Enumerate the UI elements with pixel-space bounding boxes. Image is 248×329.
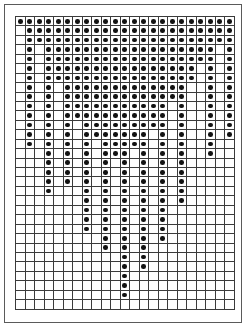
dot-cell-filled[interactable] <box>130 26 140 35</box>
dot-cell-filled[interactable] <box>44 177 54 186</box>
dot-cell-empty[interactable] <box>44 290 54 299</box>
dot-cell-empty[interactable] <box>225 224 235 233</box>
dot-cell-empty[interactable] <box>63 281 73 290</box>
dot-cell-empty[interactable] <box>63 262 73 271</box>
dot-cell-filled[interactable] <box>139 252 149 261</box>
dot-cell-filled[interactable] <box>73 111 83 120</box>
dot-cell-empty[interactable] <box>54 158 64 167</box>
dot-cell-empty[interactable] <box>225 252 235 261</box>
dot-cell-filled[interactable] <box>177 149 187 158</box>
dot-cell-empty[interactable] <box>187 205 197 214</box>
dot-cell-filled[interactable] <box>111 45 121 54</box>
dot-cell-empty[interactable] <box>196 262 206 271</box>
dot-cell-empty[interactable] <box>149 205 159 214</box>
dot-cell-filled[interactable] <box>63 64 73 73</box>
dot-cell-empty[interactable] <box>158 252 168 261</box>
dot-cell-filled[interactable] <box>101 73 111 82</box>
dot-cell-empty[interactable] <box>54 196 64 205</box>
dot-cell-empty[interactable] <box>101 262 111 271</box>
dot-cell-empty[interactable] <box>225 271 235 280</box>
dot-cell-empty[interactable] <box>92 224 102 233</box>
dot-cell-empty[interactable] <box>225 158 235 167</box>
dot-cell-empty[interactable] <box>25 234 35 243</box>
dot-cell-filled[interactable] <box>158 73 168 82</box>
dot-cell-empty[interactable] <box>54 120 64 129</box>
dot-cell-empty[interactable] <box>177 281 187 290</box>
dot-cell-empty[interactable] <box>196 234 206 243</box>
dot-cell-empty[interactable] <box>149 149 159 158</box>
dot-cell-empty[interactable] <box>35 271 45 280</box>
dot-cell-empty[interactable] <box>196 149 206 158</box>
dot-cell-empty[interactable] <box>130 186 140 195</box>
dot-cell-filled[interactable] <box>139 64 149 73</box>
dot-cell-empty[interactable] <box>215 168 225 177</box>
dot-cell-filled[interactable] <box>158 234 168 243</box>
dot-cell-empty[interactable] <box>168 234 178 243</box>
dot-cell-empty[interactable] <box>54 83 64 92</box>
dot-cell-empty[interactable] <box>215 92 225 101</box>
dot-cell-filled[interactable] <box>139 168 149 177</box>
dot-cell-filled[interactable] <box>63 177 73 186</box>
dot-cell-empty[interactable] <box>111 186 121 195</box>
dot-cell-empty[interactable] <box>215 158 225 167</box>
dot-cell-empty[interactable] <box>187 281 197 290</box>
dot-cell-empty[interactable] <box>92 252 102 261</box>
dot-cell-filled[interactable] <box>16 17 26 26</box>
dot-cell-empty[interactable] <box>25 149 35 158</box>
dot-cell-empty[interactable] <box>206 196 216 205</box>
dot-cell-filled[interactable] <box>225 130 235 139</box>
dot-cell-filled[interactable] <box>44 120 54 129</box>
dot-cell-empty[interactable] <box>196 64 206 73</box>
dot-cell-filled[interactable] <box>92 101 102 110</box>
dot-cell-empty[interactable] <box>16 168 26 177</box>
dot-cell-empty[interactable] <box>196 252 206 261</box>
dot-cell-filled[interactable] <box>215 17 225 26</box>
dot-cell-filled[interactable] <box>35 17 45 26</box>
dot-cell-filled[interactable] <box>168 54 178 63</box>
dot-cell-empty[interactable] <box>168 101 178 110</box>
dot-cell-empty[interactable] <box>25 158 35 167</box>
dot-cell-empty[interactable] <box>225 300 235 309</box>
dot-cell-filled[interactable] <box>158 64 168 73</box>
dot-cell-empty[interactable] <box>35 54 45 63</box>
dot-cell-filled[interactable] <box>139 177 149 186</box>
dot-cell-empty[interactable] <box>215 83 225 92</box>
dot-cell-empty[interactable] <box>187 158 197 167</box>
dot-cell-filled[interactable] <box>158 54 168 63</box>
dot-cell-filled[interactable] <box>168 92 178 101</box>
dot-cell-filled[interactable] <box>63 168 73 177</box>
dot-cell-filled[interactable] <box>177 73 187 82</box>
dot-cell-filled[interactable] <box>63 73 73 82</box>
dot-cell-filled[interactable] <box>206 26 216 35</box>
dot-cell-filled[interactable] <box>225 64 235 73</box>
dot-cell-empty[interactable] <box>73 186 83 195</box>
dot-cell-empty[interactable] <box>111 262 121 271</box>
dot-cell-empty[interactable] <box>35 73 45 82</box>
dot-cell-empty[interactable] <box>215 281 225 290</box>
dot-cell-empty[interactable] <box>168 271 178 280</box>
dot-cell-empty[interactable] <box>149 177 159 186</box>
dot-cell-empty[interactable] <box>206 290 216 299</box>
dot-cell-empty[interactable] <box>158 271 168 280</box>
dot-cell-empty[interactable] <box>215 271 225 280</box>
dot-cell-empty[interactable] <box>177 215 187 224</box>
dot-cell-filled[interactable] <box>158 186 168 195</box>
dot-cell-empty[interactable] <box>196 281 206 290</box>
dot-cell-filled[interactable] <box>25 54 35 63</box>
dot-cell-filled[interactable] <box>139 234 149 243</box>
dot-cell-filled[interactable] <box>25 111 35 120</box>
dot-cell-filled[interactable] <box>44 17 54 26</box>
dot-cell-filled[interactable] <box>215 26 225 35</box>
dot-cell-empty[interactable] <box>187 83 197 92</box>
dot-cell-filled[interactable] <box>206 83 216 92</box>
dot-cell-empty[interactable] <box>54 139 64 148</box>
dot-cell-empty[interactable] <box>149 224 159 233</box>
dot-cell-filled[interactable] <box>44 168 54 177</box>
dot-cell-filled[interactable] <box>44 111 54 120</box>
dot-cell-filled[interactable] <box>206 92 216 101</box>
dot-cell-filled[interactable] <box>92 17 102 26</box>
dot-cell-filled[interactable] <box>120 262 130 271</box>
dot-cell-empty[interactable] <box>177 300 187 309</box>
dot-cell-filled[interactable] <box>82 177 92 186</box>
dot-cell-empty[interactable] <box>196 215 206 224</box>
